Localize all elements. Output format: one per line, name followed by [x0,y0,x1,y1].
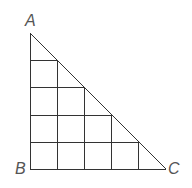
vertex-label-c: C [168,161,180,177]
vertex-label-a: A [25,13,36,29]
vertex-label-b: B [15,161,26,177]
hypotenuse-ac [30,33,166,169]
triangle-grid-diagram: A B C [0,0,192,188]
